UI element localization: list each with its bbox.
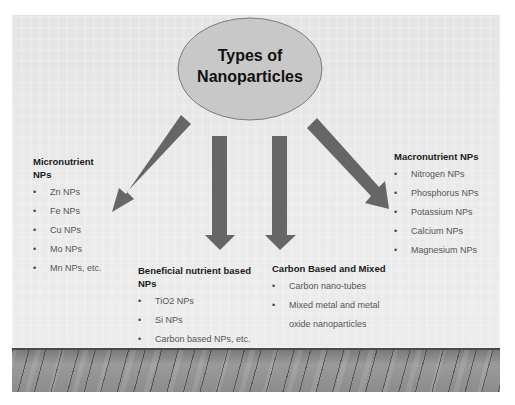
group-list: •TiO2 NPs •Si NPs •Carbon based NPs, etc… [138, 292, 268, 349]
bullet-icon: • [33, 240, 36, 259]
arrow-to-carbon [265, 136, 296, 250]
title-line-1: Types of [180, 45, 320, 66]
list-item: •Carbon based NPs, etc. [138, 330, 268, 349]
bullet-icon: • [394, 241, 397, 260]
group-list: •Zn NPs •Fe NPs •Cu NPs •Mo NPs •Mn NPs,… [33, 183, 123, 278]
bullet-icon: • [33, 202, 36, 221]
list-item-continuation: oxide nanoparticles [272, 315, 402, 334]
bullet-icon: • [138, 330, 141, 349]
bullet-icon: • [33, 259, 36, 278]
group-beneficial: Beneficial nutrient based NPs •TiO2 NPs … [138, 264, 268, 349]
list-item: •Mo NPs [33, 240, 123, 259]
bullet-icon: • [394, 184, 397, 203]
group-macronutrient: Macronutrient NPs •Nitrogen NPs •Phospho… [394, 150, 509, 260]
list-item: •Cu NPs [33, 221, 123, 240]
group-list: •Carbon nano-tubes •Mixed metal and meta… [272, 277, 402, 334]
list-item: •Carbon nano-tubes [272, 277, 402, 296]
group-heading: Beneficial nutrient based NPs [138, 264, 268, 290]
list-item: •Fe NPs [33, 202, 123, 221]
list-item: •Magnesium NPs [394, 241, 509, 260]
arrow-to-macronutrient [307, 118, 389, 209]
diagram-title: Types of Nanoparticles [180, 45, 320, 87]
list-item: •Calcium NPs [394, 222, 509, 241]
arrow-to-beneficial [205, 136, 235, 250]
bullet-icon: • [394, 222, 397, 241]
bullet-icon: • [33, 221, 36, 240]
group-carbon-mixed: Carbon Based and Mixed •Carbon nano-tube… [272, 262, 402, 334]
group-heading: Micronutrient NPs [33, 155, 123, 181]
list-item: •Zn NPs [33, 183, 123, 202]
bullet-icon: • [138, 292, 141, 311]
group-micronutrient: Micronutrient NPs •Zn NPs •Fe NPs •Cu NP… [33, 155, 123, 278]
list-item: •Mixed metal and metal [272, 296, 402, 315]
list-item: •Mn NPs, etc. [33, 259, 123, 278]
bullet-icon: • [138, 311, 141, 330]
bullet-icon: • [394, 165, 397, 184]
list-item: •Si NPs [138, 311, 268, 330]
list-item: •TiO2 NPs [138, 292, 268, 311]
group-heading: Macronutrient NPs [394, 150, 509, 163]
title-line-2: Nanoparticles [180, 66, 320, 87]
bullet-icon: • [272, 277, 275, 296]
list-item: •Nitrogen NPs [394, 165, 509, 184]
arrow-to-micronutrient [112, 115, 191, 212]
group-heading: Carbon Based and Mixed [272, 262, 402, 275]
list-item: •Potassium NPs [394, 203, 509, 222]
bullet-icon: • [394, 203, 397, 222]
group-list: •Nitrogen NPs •Phosphorus NPs •Potassium… [394, 165, 509, 260]
bullet-icon: • [33, 183, 36, 202]
bullet-icon: • [272, 296, 275, 315]
list-item: •Phosphorus NPs [394, 184, 509, 203]
